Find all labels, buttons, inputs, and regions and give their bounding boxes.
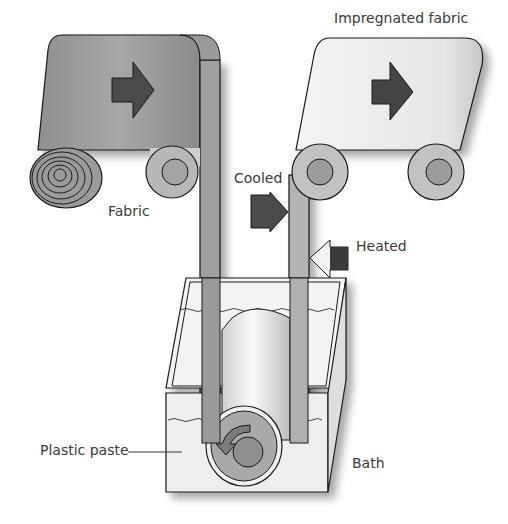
cooled-arrow-icon [251, 192, 288, 232]
roller-icon [408, 144, 464, 200]
heated-arrow-block [330, 247, 348, 270]
label-fabric: Fabric [108, 203, 150, 219]
fabric-roll-icon [30, 148, 102, 208]
label-cooled: Cooled [234, 170, 282, 186]
roller-icon [146, 146, 200, 198]
roller-icon [292, 144, 348, 200]
label-bath: Bath [352, 455, 385, 471]
label-plastic-paste: Plastic paste [40, 442, 129, 458]
label-impregnated-fabric: Impregnated fabric [334, 10, 468, 26]
label-heated: Heated [356, 238, 407, 254]
